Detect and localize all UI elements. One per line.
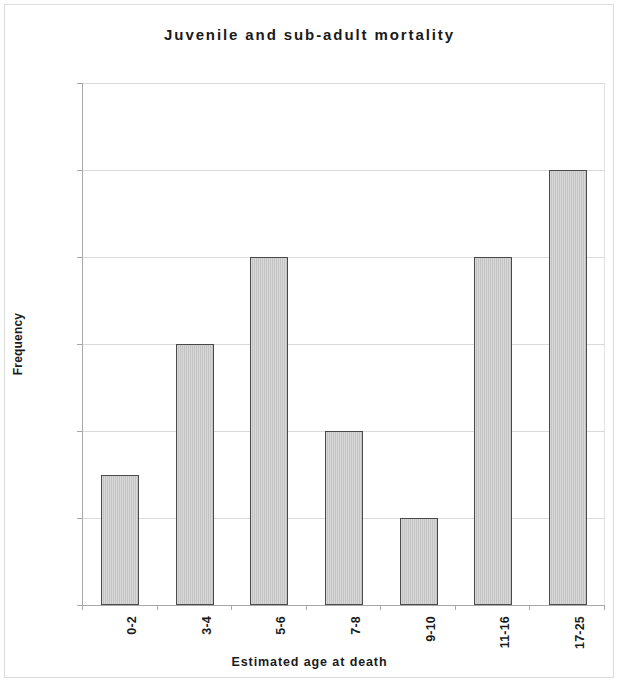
- x-tick-label: 0-2: [125, 616, 139, 635]
- bar: [250, 257, 288, 605]
- bar: [176, 344, 214, 605]
- y-tick-mark: [77, 83, 82, 84]
- x-axis-title: Estimated age at death: [0, 655, 619, 669]
- y-tick-mark: [77, 170, 82, 171]
- chart-figure: Juvenile and sub-adult mortality 0246810…: [0, 0, 619, 683]
- y-tick-mark: [77, 344, 82, 345]
- x-tick-mark: [380, 605, 381, 610]
- x-tick-mark: [455, 605, 456, 610]
- x-tick-label: 3-4: [200, 616, 214, 635]
- gridline: [83, 170, 605, 171]
- x-tick-label: 9-10: [424, 616, 438, 642]
- x-tick-mark: [157, 605, 158, 610]
- gridline: [83, 83, 605, 84]
- bar: [474, 257, 512, 605]
- x-tick-label: 7-8: [349, 616, 363, 635]
- bar: [325, 431, 363, 605]
- x-tick-mark: [529, 605, 530, 610]
- bar: [101, 475, 139, 606]
- plot-area: [82, 83, 605, 606]
- y-tick-mark: [77, 431, 82, 432]
- y-tick-mark: [77, 257, 82, 258]
- x-tick-mark: [306, 605, 307, 610]
- bar: [400, 518, 438, 605]
- y-axis-title: Frequency: [11, 313, 25, 376]
- x-tick-mark: [604, 605, 605, 610]
- gridline: [83, 257, 605, 258]
- gridline: [83, 344, 605, 345]
- x-tick-mark: [231, 605, 232, 610]
- x-tick-label: 11-16: [498, 616, 512, 648]
- y-tick-mark: [77, 518, 82, 519]
- x-tick-label: 17-25: [573, 616, 587, 649]
- bar: [549, 170, 587, 605]
- x-tick-label: 5-6: [274, 616, 288, 635]
- chart-title: Juvenile and sub-adult mortality: [0, 26, 619, 43]
- x-tick-mark: [82, 605, 83, 610]
